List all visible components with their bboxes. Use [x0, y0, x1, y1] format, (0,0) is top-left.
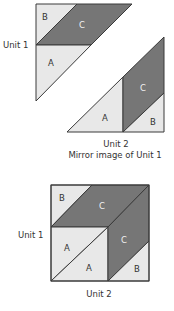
combined-block: B C A A C B Unit 1 Unit 2 [18, 185, 149, 299]
piece-c-right-label: C [121, 235, 127, 245]
piece-c-top-label: C [99, 201, 105, 211]
unit2-label: Unit 2 [103, 139, 128, 149]
piece-c-label: C [79, 20, 85, 30]
piece-b-bottom-label: B [134, 264, 140, 274]
piece-a-label: A [102, 113, 108, 123]
unit2-label: Unit 2 [86, 289, 111, 299]
unit2-separate: A C B Unit 2 Mirror image of Unit 1 [67, 37, 164, 160]
unit2-caption: Mirror image of Unit 1 [68, 150, 161, 160]
piece-a [36, 45, 91, 101]
piece-c-label: C [140, 83, 146, 93]
piece-a-label: A [48, 58, 54, 68]
piece-b-top-label: B [59, 193, 65, 203]
piece-b-label: B [42, 12, 48, 22]
piece-a [67, 77, 123, 132]
quilt-block-diagram: B C A Unit 1 A C B Unit 2 Mirror image o… [0, 0, 174, 311]
unit1-label: Unit 1 [3, 40, 28, 50]
unit1-label: Unit 1 [18, 230, 43, 240]
piece-a-bottom-label: A [86, 263, 92, 273]
piece-b-label: B [150, 117, 156, 127]
unit1-separate: B C A Unit 1 [3, 4, 132, 101]
piece-a-left-label: A [64, 243, 70, 253]
